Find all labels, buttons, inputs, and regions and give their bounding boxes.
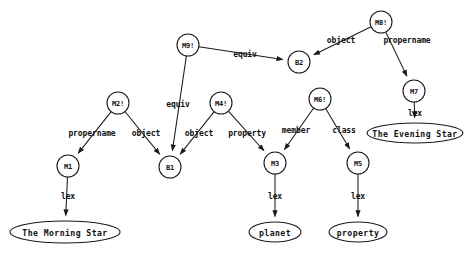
edge-label-lex-M3-planet: lex xyxy=(268,192,282,201)
node-label-M6: M6! xyxy=(314,96,326,104)
node-label-planet: planet xyxy=(259,228,291,238)
edge-label-lex-M7-evening-star: lex xyxy=(408,109,422,118)
node-B2[interactable]: B2 xyxy=(288,51,310,73)
edge-label-propername-M8-M7: propername xyxy=(383,36,430,45)
node-M1[interactable]: M1 xyxy=(57,155,79,177)
node-M9[interactable]: M9! xyxy=(177,34,199,56)
edge-label-object-M8-B2: object xyxy=(327,35,356,45)
node-M8[interactable]: M8! xyxy=(370,11,392,33)
node-label-M2: M2! xyxy=(112,100,124,108)
node-label-M7: M7 xyxy=(410,88,418,96)
node-label-B2: B2 xyxy=(295,59,303,67)
edge-labels-layer: equivequivobjectpropernamelexpropernameo… xyxy=(61,35,431,201)
edge-label-lex-M1-morning-star: lex xyxy=(61,192,75,201)
edge-label-propername-M2-M1: propername xyxy=(68,129,115,138)
edge-label-lex-M5-property-leaf: lex xyxy=(351,192,365,201)
edge-label-object-M2-B1: object xyxy=(132,128,161,138)
node-label-M5: M5 xyxy=(354,160,362,168)
node-label-morning-star: The Morning Star xyxy=(22,228,107,238)
edge-label-object-M4-B1: object xyxy=(185,128,214,138)
semantic-network-graph: M9!M8!B2M7M2!M4!M6!M1B1M3M5The Morning S… xyxy=(0,0,469,259)
diagram-canvas: M9!M8!B2M7M2!M4!M6!M1B1M3M5The Morning S… xyxy=(0,0,469,259)
node-B1[interactable]: B1 xyxy=(159,156,181,178)
node-label-B1: B1 xyxy=(166,164,174,172)
node-M7[interactable]: M7 xyxy=(403,80,425,102)
node-label-property-leaf: property xyxy=(337,228,380,238)
node-planet[interactable]: planet xyxy=(249,222,301,242)
node-label-M8: M8! xyxy=(375,19,387,27)
edge-label-member-M6-M3: member xyxy=(282,126,311,135)
edge-label-property-M4-M3: property xyxy=(228,129,266,138)
node-M3[interactable]: M3 xyxy=(264,152,286,174)
node-label-M4: M4! xyxy=(215,100,227,108)
node-M4[interactable]: M4! xyxy=(210,92,232,114)
node-M2[interactable]: M2! xyxy=(107,92,129,114)
node-M6[interactable]: M6! xyxy=(309,88,331,110)
edge-label-equiv-M9-B2: equiv xyxy=(233,49,257,59)
nodes-layer: M9!M8!B2M7M2!M4!M6!M1B1M3M5The Morning S… xyxy=(10,11,463,243)
node-label-M1: M1 xyxy=(64,163,72,171)
node-property-leaf[interactable]: property xyxy=(329,222,387,242)
node-evening-star[interactable]: The Evening Star xyxy=(367,123,463,143)
node-label-M9: M9! xyxy=(182,42,194,50)
node-label-evening-star: The Evening Star xyxy=(372,129,457,139)
edge-label-class-M6-M5: class xyxy=(332,126,356,135)
node-morning-star[interactable]: The Morning Star xyxy=(10,221,120,243)
node-M5[interactable]: M5 xyxy=(347,152,369,174)
node-label-M3: M3 xyxy=(271,160,279,168)
edge-label-equiv-M9-B1: equiv xyxy=(166,99,190,109)
